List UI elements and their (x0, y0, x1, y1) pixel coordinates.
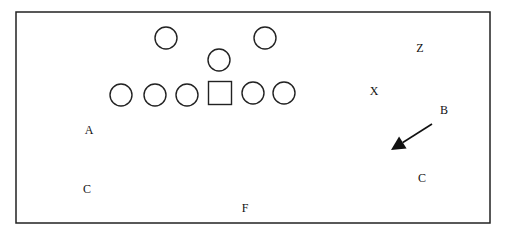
arrow-icon (391, 124, 432, 150)
player-label: C (83, 182, 91, 196)
player-circle (144, 84, 166, 106)
player-circle (254, 27, 276, 49)
player-circle (176, 84, 198, 106)
player-label: B (440, 103, 448, 117)
player-label: X (370, 84, 379, 98)
player-label: A (85, 123, 94, 137)
diagram-canvas: ZXBACCF (0, 0, 505, 235)
player-label: C (418, 171, 426, 185)
player-label: F (242, 201, 249, 215)
player-label: Z (416, 41, 423, 55)
player-circle (242, 82, 264, 104)
formation-diagram: ZXBACCF (0, 0, 505, 235)
player-circle (208, 49, 230, 71)
player-circle (273, 82, 295, 104)
player-circle (155, 27, 177, 49)
center-square (209, 82, 232, 105)
player-circle (110, 84, 132, 106)
